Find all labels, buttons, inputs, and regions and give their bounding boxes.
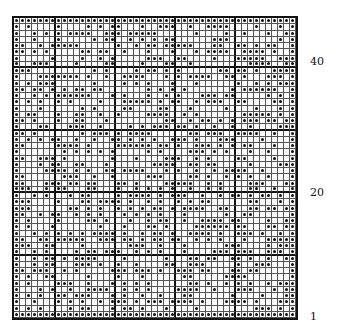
chart-cell — [290, 312, 296, 318]
row-label-1: 1 — [310, 310, 317, 323]
row-label-20: 20 — [310, 186, 324, 199]
chart-grid — [12, 16, 298, 320]
row-label-40: 40 — [310, 55, 324, 68]
